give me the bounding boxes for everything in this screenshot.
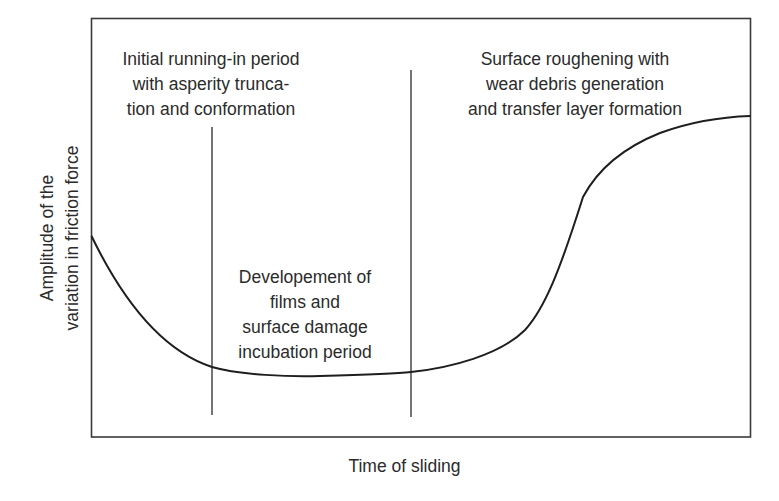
annotation-line: wear debris generation: [440, 72, 710, 97]
y-axis-label-line: variation in friction force: [60, 146, 85, 331]
y-axis-label-line: Amplitude of the: [35, 146, 60, 331]
annotation-roughening: Surface roughening with wear debris gene…: [440, 47, 710, 122]
annotation-line: and transfer layer formation: [440, 97, 710, 122]
annotation-incubation: Developement of films and surface damage…: [215, 265, 395, 365]
friction-curve: [92, 116, 751, 376]
annotation-running-in: Initial running-in period with asperity …: [104, 47, 318, 122]
annotation-line: incubation period: [215, 340, 395, 365]
annotation-line: surface damage: [215, 315, 395, 340]
annotation-line: with asperity trunca-: [104, 72, 318, 97]
annotation-line: Initial running-in period: [104, 47, 318, 72]
annotation-line: Surface roughening with: [440, 47, 710, 72]
annotation-line: tion and conformation: [104, 97, 318, 122]
annotation-line: films and: [215, 290, 395, 315]
annotation-line: Developement of: [215, 265, 395, 290]
x-axis-label: Time of sliding: [0, 456, 779, 477]
